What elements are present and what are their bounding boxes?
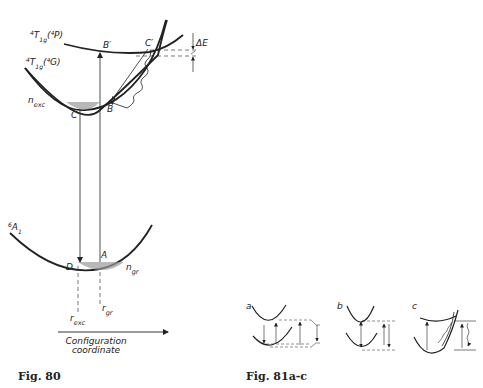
r-exc-label: rexc	[70, 313, 86, 327]
fig81-diagram: a b c	[246, 301, 476, 383]
svg-text:6A1: 6A1	[8, 221, 22, 235]
fig81-panel-a: a	[246, 301, 320, 347]
label-d: D	[66, 262, 73, 272]
fig81-panel-c: c	[412, 301, 476, 353]
label-c-prime: C′	[145, 38, 153, 48]
svg-text:b: b	[337, 301, 343, 311]
label-b: B	[107, 104, 113, 114]
label-b-prime: B′	[103, 40, 111, 50]
n-gr-label: ngr	[126, 262, 140, 276]
figure-canvas: 4T1g(⁴P) 4T1g(⁴G) 6A1 ΔE B′ C′ B C A D n…	[0, 0, 483, 388]
n-gr-population	[78, 262, 124, 270]
label-c: C	[71, 110, 78, 120]
svg-text:a: a	[246, 301, 252, 311]
svg-text:c: c	[412, 301, 417, 311]
label-a: A	[100, 250, 107, 260]
n-exc-label: nexc	[28, 95, 46, 109]
fig80-caption: Fig. 80	[18, 370, 61, 383]
axis-label-line2: coordinate	[72, 345, 121, 355]
svg-text:4T1g(⁴G): 4T1g(⁴G)	[26, 56, 61, 71]
fig80-diagram: 4T1g(⁴P) 4T1g(⁴G) 6A1 ΔE B′ C′ B C A D n…	[8, 20, 208, 383]
r-gr-label: rgr	[102, 303, 114, 317]
delta-e-label: ΔE	[195, 38, 208, 48]
svg-text:4T1g(⁴P): 4T1g(⁴P)	[30, 29, 63, 44]
fig81-panel-b: b	[337, 301, 395, 350]
fig81-caption: Fig. 81a-c	[246, 370, 307, 383]
